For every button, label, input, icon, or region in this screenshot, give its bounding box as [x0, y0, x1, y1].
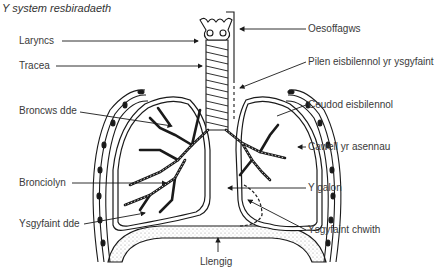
- label-right-bronchus: Broncws dde: [19, 105, 77, 117]
- label-trachea: Tracea: [19, 60, 50, 72]
- label-bronchiole: Bronciolyn: [19, 177, 66, 189]
- label-pleural-cavity: Ceudod eisbilennol: [308, 99, 393, 111]
- label-heart: Y galon: [308, 182, 342, 194]
- label-left-lung: Ysgyfaint chwith: [308, 224, 380, 236]
- larynx: [200, 18, 232, 40]
- label-larynx: Laryncs: [19, 35, 54, 47]
- label-right-lung: Ysgyfaint dde: [19, 218, 80, 230]
- label-pleural-membrane: Pilen eisbilennol yr ysgyfaint: [308, 56, 434, 68]
- trachea: [200, 12, 234, 130]
- label-diaphragm: Llengig: [200, 256, 232, 268]
- label-oesophagus: Oesoffagws: [308, 23, 361, 35]
- label-rib-cage: Cawell yr asennau: [308, 141, 390, 153]
